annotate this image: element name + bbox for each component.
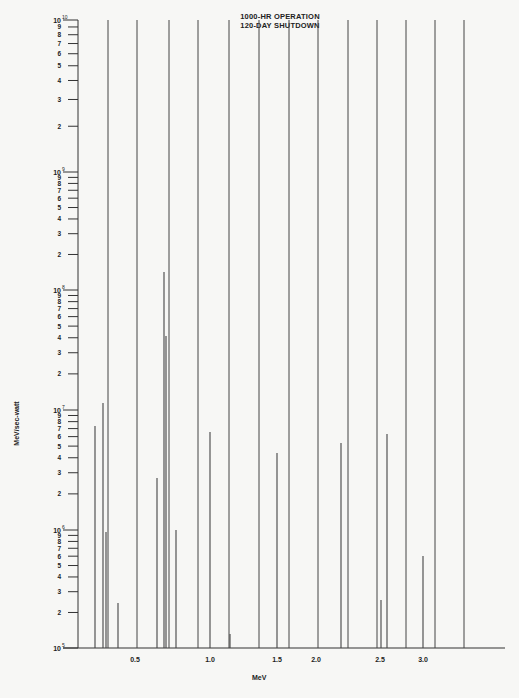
x-axis-ticks: 0.51.01.52.02.53.0 [130,656,428,663]
y-decade-label: 10 [53,287,61,294]
y-minor-label: 7 [57,187,61,194]
y-minor-label: 3 [57,469,61,476]
x-tick-label: 1.0 [205,656,215,663]
y-minor-label: 7 [57,305,61,312]
y-minor-label: 3 [57,588,61,595]
y-decade-label: 10 [53,169,61,176]
y-minor-label: 4 [57,77,61,84]
y-minor-label: 4 [57,215,61,222]
x-axis-label: MeV [252,674,266,681]
y-minor-label: 5 [57,204,61,211]
y-minor-label: 6 [57,433,61,440]
y-minor-label: 7 [57,545,61,552]
y-decade-exponent: 9 [62,166,65,172]
y-minor-label: 2 [57,251,61,258]
y-minor-label: 5 [57,443,61,450]
y-minor-label: 8 [57,418,61,425]
y-minor-label: 6 [57,553,61,560]
y-minor-label: 2 [57,609,61,616]
y-decade-exponent: 10 [62,14,68,20]
y-decade-exponent: 7 [62,404,65,410]
x-tick-label: 2.5 [375,656,385,663]
y-minor-label: 5 [57,562,61,569]
spectrum-plot: 1052345678910623456789107234567891082345… [0,0,519,698]
y-minor-label: 2 [57,490,61,497]
y-minor-label: 8 [57,538,61,545]
y-axis-label: MeV/sec-watt [13,384,20,464]
y-minor-label: 2 [57,370,61,377]
y-minor-label: 8 [57,298,61,305]
x-tick-label: 1.5 [272,656,282,663]
y-minor-label: 6 [57,195,61,202]
y-minor-label: 6 [57,50,61,57]
y-minor-label: 4 [57,573,61,580]
y-minor-label: 3 [57,230,61,237]
x-tick-label: 3.0 [418,656,428,663]
y-axis-ticks: 1052345678910623456789107234567891082345… [53,14,78,652]
y-minor-label: 9 [57,23,61,30]
x-tick-label: 0.5 [130,656,140,663]
y-minor-label: 8 [57,180,61,187]
y-decade-exponent: 5 [62,642,65,648]
axes [63,20,505,648]
y-decade-label: 10 [53,407,61,414]
y-decade-label: 10 [53,527,61,534]
y-minor-label: 2 [57,123,61,130]
y-minor-label: 5 [57,62,61,69]
y-decade-exponent: 8 [62,284,65,290]
y-decade-exponent: 6 [62,524,65,530]
y-minor-label: 7 [57,425,61,432]
y-decade-label: 10 [53,645,61,652]
y-minor-label: 5 [57,323,61,330]
y-minor-label: 4 [57,454,61,461]
y-minor-label: 4 [57,334,61,341]
y-decade-label: 10 [53,17,61,24]
y-minor-label: 6 [57,313,61,320]
x-tick-label: 2.0 [311,656,321,663]
spectral-lines [95,20,464,648]
y-minor-label: 7 [57,40,61,47]
y-minor-label: 8 [57,31,61,38]
y-minor-label: 3 [57,349,61,356]
y-minor-label: 3 [57,96,61,103]
